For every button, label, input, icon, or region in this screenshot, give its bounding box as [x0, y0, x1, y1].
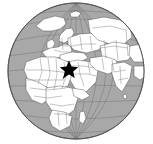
- globe-locator-map: Orthographic globe centered on Africa, E…: [0, 0, 153, 144]
- landmass-east-asia: [129, 44, 148, 62]
- globe-svg: [0, 0, 153, 144]
- landmass-sri-lanka: [123, 94, 127, 99]
